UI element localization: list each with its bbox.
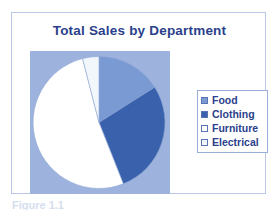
- legend-swatch-furniture: [201, 125, 208, 132]
- chart-legend[interactable]: Food Clothing Furniture Electrical: [197, 90, 268, 153]
- pie-chart[interactable]: [30, 51, 170, 194]
- figure-caption: Figure 1.1: [12, 199, 132, 210]
- legend-swatch-electrical: [201, 139, 208, 146]
- pie-slice-group: [33, 57, 165, 189]
- legend-item-clothing[interactable]: Clothing: [201, 107, 264, 121]
- chart-container[interactable]: Total Sales by Department Food Clothing …: [11, 12, 266, 194]
- plot-area[interactable]: [30, 51, 170, 194]
- legend-swatch-clothing: [201, 111, 208, 118]
- legend-label-food: Food: [212, 95, 238, 106]
- legend-item-furniture[interactable]: Furniture: [201, 121, 264, 135]
- legend-swatch-food: [201, 97, 208, 104]
- legend-label-electrical: Electrical: [212, 137, 259, 148]
- legend-label-furniture: Furniture: [212, 123, 258, 134]
- legend-item-electrical[interactable]: Electrical: [201, 135, 264, 149]
- chart-title: Total Sales by Department: [12, 23, 267, 38]
- legend-item-food[interactable]: Food: [201, 93, 264, 107]
- legend-label-clothing: Clothing: [212, 109, 255, 120]
